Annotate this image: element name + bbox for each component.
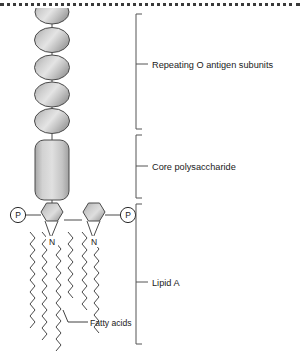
- o-antigen-subunit: [35, 55, 70, 80]
- fatty-acids-label: Fatty acids: [90, 318, 132, 328]
- phosphate-left: P: [10, 207, 25, 222]
- bracket-group-core-polysaccharide: Core polysaccharide: [136, 135, 236, 198]
- nitrogen-label-right: N: [91, 237, 97, 247]
- bracket-label-core-polysaccharide: Core polysaccharide: [152, 162, 236, 172]
- fatty-acid-chains: [30, 232, 99, 351]
- phosphate-left-glyph: P: [15, 210, 21, 220]
- glucosamine-hexagon-right: [83, 203, 105, 221]
- core-polysaccharide-block: [35, 140, 69, 200]
- o-antigen-subunit: [35, 109, 70, 134]
- bracket-label-o-antigen: Repeating O antigen subunits: [152, 60, 273, 70]
- o-antigen-subunit: [35, 28, 70, 53]
- fatty-acid-chain: [30, 232, 35, 328]
- nitrogen-label-left: N: [49, 237, 55, 247]
- fatty-acid-chain: [42, 232, 47, 340]
- bracket-group-lipid-a: Lipid A: [136, 204, 180, 344]
- core-polysaccharide-shape: [35, 140, 69, 210]
- fatty-acids-leader-line: [63, 310, 88, 322]
- bracket-group-o-antigen: Repeating O antigen subunits: [136, 14, 273, 129]
- lps-figure: P P N N: [0, 0, 300, 364]
- fatty-acid-chain: [68, 232, 73, 298]
- phosphate-right: P: [120, 207, 135, 222]
- o-antigen-chain: [35, 0, 70, 141]
- o-antigen-subunit: [35, 0, 69, 24]
- glucosamine-hexagon-left: [41, 203, 63, 221]
- amine-linkage-right: [87, 221, 100, 238]
- phosphate-right-glyph: P: [125, 210, 131, 220]
- o-antigen-subunit: [35, 82, 70, 107]
- fatty-acid-chain: [82, 232, 87, 310]
- amine-linkage-left: [45, 221, 58, 238]
- fatty-acid-chain: [56, 243, 61, 351]
- lipid-a-group: P P N N: [10, 203, 135, 351]
- lps-diagram-canvas: P P N N: [0, 0, 300, 364]
- bracket-label-lipid-a: Lipid A: [152, 278, 180, 288]
